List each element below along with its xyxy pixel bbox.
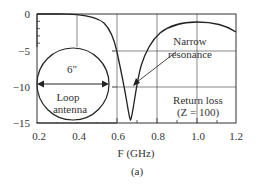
x-axis-label: F (GHz): [118, 147, 155, 160]
x-tick-0.2: 0.2: [32, 130, 46, 142]
y-tick-minus5: −5: [18, 45, 30, 57]
x-tick-0.8: 0.8: [151, 130, 165, 142]
annotation-return-loss: Return loss: [173, 94, 223, 106]
annotation-impedance: (Z = 100): [177, 106, 220, 119]
y-tick-minus15: −15: [13, 117, 31, 129]
x-tick-1.2: 1.2: [229, 130, 243, 142]
annotation-narrow: Narrow: [173, 35, 207, 47]
figure-caption: (a): [131, 165, 144, 178]
x-tick-0.4: 0.4: [72, 130, 86, 142]
return-loss-chart: 0 −5 −10 −15 0.2 0.4 0.6 0.8 1.0 1.2 F (…: [0, 0, 257, 187]
antenna-label: antenna: [53, 103, 87, 115]
y-tick-0: 0: [25, 8, 31, 20]
y-tick-minus10: −10: [13, 81, 31, 93]
loop-label: Loop: [56, 91, 80, 103]
annotation-resonance: resonance: [168, 48, 212, 60]
diameter-label: 6": [67, 63, 77, 75]
x-tick-1.0: 1.0: [191, 130, 205, 142]
x-tick-0.6: 0.6: [111, 130, 125, 142]
loop-antenna-inset: 6" Loop antenna: [36, 47, 112, 122]
